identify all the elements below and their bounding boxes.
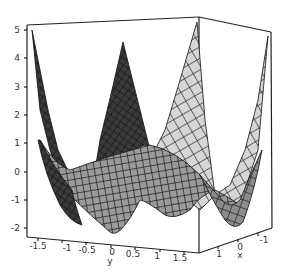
svg-text:2: 2: [14, 110, 20, 120]
z-axis-tick-labels: 5 4 3 2 1 0 -1 -2: [11, 25, 20, 233]
svg-text:0.5: 0.5: [126, 249, 140, 259]
svg-text:-1: -1: [63, 243, 72, 253]
svg-text:-2: -2: [11, 223, 20, 233]
x-axis-label: x: [237, 250, 243, 260]
z-axis: [24, 25, 27, 237]
svg-text:-1: -1: [260, 235, 269, 245]
svg-text:0: 0: [14, 167, 20, 177]
svg-text:1: 1: [216, 249, 222, 259]
surface-far-right-peak: [215, 36, 268, 215]
surface-plot: 5 4 3 2 1 0 -1 -2 -1.5 -1 -0.5 0 0.5 1 1…: [0, 0, 288, 274]
svg-text:3: 3: [14, 82, 20, 92]
y-axis-label: y: [107, 256, 113, 266]
svg-text:1: 1: [154, 251, 160, 261]
svg-text:-1.5: -1.5: [29, 241, 47, 251]
svg-text:1.5: 1.5: [173, 253, 187, 263]
svg-text:-1: -1: [11, 195, 20, 205]
svg-text:1: 1: [14, 138, 20, 148]
svg-text:-0.5: -0.5: [78, 245, 96, 255]
svg-text:4: 4: [14, 53, 20, 63]
svg-text:5: 5: [14, 25, 20, 35]
